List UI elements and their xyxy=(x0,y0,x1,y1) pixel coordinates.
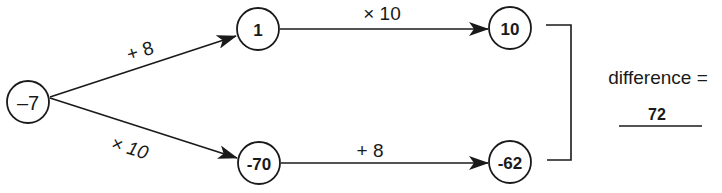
node-start-value: –7 xyxy=(17,92,39,114)
edge-label-plus-8-upper: + 8 xyxy=(124,37,156,65)
node-bottom-mid: -70 xyxy=(238,142,280,184)
difference-value: 72 xyxy=(648,106,666,123)
node-top-mid-value: 1 xyxy=(253,21,262,40)
difference-bracket xyxy=(546,25,571,160)
edge-label-times-10-top: × 10 xyxy=(363,3,401,24)
difference-label: difference = xyxy=(608,67,707,88)
node-bottom-mid-value: -70 xyxy=(247,155,272,174)
node-top-mid: 1 xyxy=(237,8,279,50)
node-top-end-value: 10 xyxy=(501,20,520,39)
node-bottom-end: -62 xyxy=(489,141,531,183)
node-start: –7 xyxy=(7,81,49,123)
function-machine-diagram: + 8 × 10 × 10 + 8 –7 1 10 -70 -62 differ… xyxy=(0,0,722,193)
node-bottom-end-value: -62 xyxy=(498,154,523,173)
difference-result: difference = 72 xyxy=(608,67,707,126)
edge-label-plus-8-bottom: + 8 xyxy=(357,140,384,161)
edge-label-times-10-lower: × 10 xyxy=(109,132,151,163)
node-top-end: 10 xyxy=(489,7,531,49)
